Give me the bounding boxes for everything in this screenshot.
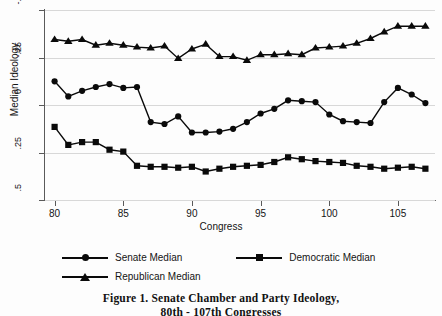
series-republican-median <box>50 22 429 63</box>
legend-label-senate-median: Senate Median <box>115 252 182 263</box>
circle-marker-icon <box>381 99 387 105</box>
circle-marker-icon <box>367 120 373 126</box>
x-axis-title: Congress <box>0 221 442 232</box>
square-marker-icon <box>312 158 318 164</box>
square-marker-icon <box>409 164 415 170</box>
circle-marker-icon <box>312 99 318 105</box>
triangle-marker-icon <box>105 39 113 46</box>
circle-marker-icon <box>326 111 332 117</box>
legend-item-democratic-median: Democratic Median <box>236 252 375 264</box>
x-tick-label: 100 <box>314 208 344 219</box>
gridline <box>45 200 435 201</box>
square-marker-icon <box>52 124 58 130</box>
square-marker-icon <box>79 139 85 145</box>
y-tick-label: -.5 <box>13 0 23 26</box>
circle-marker-icon <box>409 91 415 97</box>
circle-marker-icon <box>161 121 167 127</box>
circle-marker-icon <box>285 97 291 103</box>
square-marker-icon <box>354 163 360 169</box>
triangle-marker-icon <box>62 271 108 283</box>
y-axis-title: Median Ideology <box>9 20 20 140</box>
triangle-marker-icon <box>229 53 237 60</box>
circle-marker-icon <box>120 85 126 91</box>
circle-marker-icon <box>52 78 58 84</box>
series-senate-median <box>52 78 429 135</box>
figure-panel: Median Ideology .5.250-.25-.5 8085909510… <box>0 0 442 316</box>
circle-marker-icon <box>106 81 112 87</box>
circle-marker-icon <box>79 88 85 94</box>
figure-caption-line-2: 80th - 107th Congresses <box>0 306 442 316</box>
square-marker-icon <box>189 164 195 170</box>
triangle-marker-icon <box>160 42 168 49</box>
square-marker-icon <box>271 159 277 165</box>
triangle-marker-icon <box>394 22 402 29</box>
square-marker-icon <box>422 166 428 172</box>
x-tick-label: 80 <box>40 208 70 219</box>
circle-marker-icon <box>203 129 209 135</box>
chart-legend: Senate Median Democratic Median Republic… <box>62 248 392 286</box>
square-marker-icon <box>326 159 332 165</box>
square-marker-icon <box>367 164 373 170</box>
triangle-marker-icon <box>256 51 264 58</box>
circle-marker-icon <box>93 84 99 90</box>
legend-item-republican-median: Republican Median <box>62 271 201 283</box>
series-democratic-median <box>52 124 429 175</box>
triangle-marker-icon <box>421 22 429 29</box>
circle-marker-icon <box>271 106 277 112</box>
circle-marker-icon <box>299 98 305 104</box>
square-marker-icon <box>230 164 236 170</box>
plot-area <box>45 10 435 200</box>
x-tick-label: 95 <box>246 208 276 219</box>
x-tick-label: 90 <box>177 208 207 219</box>
y-tick-label: .25 <box>13 137 23 169</box>
square-marker-icon <box>340 160 346 166</box>
square-marker-icon <box>216 166 222 172</box>
circle-marker-icon <box>148 119 154 125</box>
square-marker-icon <box>244 163 250 169</box>
square-marker-icon <box>285 154 291 160</box>
square-marker-icon <box>236 252 282 264</box>
y-tick-label: -.25 <box>13 42 23 74</box>
square-marker-icon <box>299 156 305 162</box>
circle-marker-icon <box>354 119 360 125</box>
square-marker-icon <box>148 164 154 170</box>
circle-marker-icon <box>340 118 346 124</box>
circle-marker-icon <box>62 252 108 264</box>
triangle-marker-icon <box>202 40 210 47</box>
x-tick-label: 105 <box>383 208 413 219</box>
circle-marker-icon <box>189 129 195 135</box>
square-marker-icon <box>258 162 264 168</box>
circle-marker-icon <box>230 126 236 132</box>
square-marker-icon <box>106 147 112 153</box>
y-tick-label: .5 <box>13 184 23 216</box>
circle-marker-icon <box>216 129 222 135</box>
square-marker-icon <box>65 142 71 148</box>
legend-label-republican-median: Republican Median <box>115 271 201 282</box>
square-marker-icon <box>161 164 167 170</box>
square-marker-icon <box>134 163 140 169</box>
triangle-marker-icon <box>408 22 416 29</box>
triangle-marker-icon <box>284 50 292 57</box>
square-marker-icon <box>175 165 181 171</box>
circle-marker-icon <box>395 85 401 91</box>
circle-marker-icon <box>422 100 428 106</box>
square-marker-icon <box>381 166 387 172</box>
figure-caption-line-1: Figure 1. Senate Chamber and Party Ideol… <box>0 292 442 304</box>
figure-caption: Figure 1. Senate Chamber and Party Ideol… <box>0 292 442 316</box>
circle-marker-icon <box>65 93 71 99</box>
legend-item-senate-median: Senate Median <box>62 252 182 264</box>
circle-marker-icon <box>258 110 264 116</box>
square-marker-icon <box>203 168 209 174</box>
y-tick-label: 0 <box>13 89 23 121</box>
legend-label-democratic-median: Democratic Median <box>289 252 375 263</box>
data-series-layer <box>45 10 435 200</box>
circle-marker-icon <box>244 119 250 125</box>
circle-marker-icon <box>175 113 181 119</box>
square-marker-icon <box>395 165 401 171</box>
x-tick-label: 85 <box>108 208 138 219</box>
triangle-marker-icon <box>50 35 58 42</box>
circle-marker-icon <box>134 84 140 90</box>
square-marker-icon <box>120 149 126 155</box>
square-marker-icon <box>93 139 99 145</box>
triangle-marker-icon <box>78 35 86 42</box>
